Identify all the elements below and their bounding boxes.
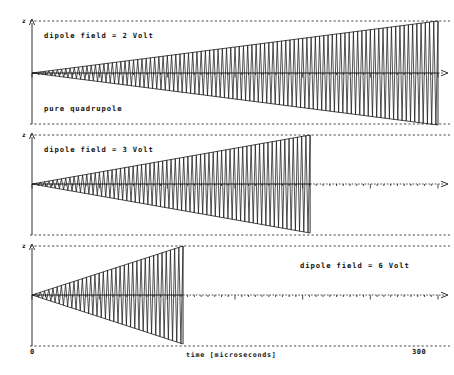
panel-6-volt-plot xyxy=(0,242,454,350)
panel-label-3-volt: dipole field = 3 Volt xyxy=(44,146,154,153)
panel-label-2-volt: dipole field = 2 Volt xyxy=(44,32,154,39)
x-tick-label-left: 0 xyxy=(30,349,35,356)
oscillation-figure: z dipole field = 2 Volt pure quadrupole … xyxy=(0,0,454,375)
y-axis-label-panel-0: z xyxy=(22,18,26,24)
panel-6-volt: z dipole field = 6 Volt xyxy=(0,242,454,350)
y-axis-label-panel-1: z xyxy=(22,132,26,138)
panel-label-6-volt: dipole field = 6 Volt xyxy=(300,262,410,269)
x-tick-label-right: 300 xyxy=(412,349,426,356)
panel-3-volt: z dipole field = 3 Volt xyxy=(0,131,454,239)
y-axis-label-panel-2: z xyxy=(22,243,26,249)
panel-sublabel-pure-quadrupole: pure quadrupole xyxy=(44,105,122,112)
x-axis-label: time [microseconds] xyxy=(186,352,277,359)
panel-2-volt: z dipole field = 2 Volt pure quadrupole xyxy=(0,18,454,128)
